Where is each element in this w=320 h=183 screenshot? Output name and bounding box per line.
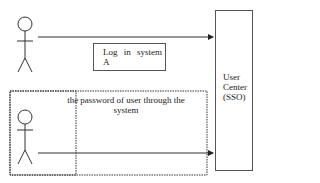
user-center-label: User Center (SSO): [223, 72, 253, 102]
message-1-box: Log in system A: [93, 43, 166, 71]
user-center-label-line-2: Center: [223, 82, 253, 92]
message-2-label-line-2: system: [56, 105, 196, 115]
user-center-label-line-3: (SSO): [223, 92, 253, 102]
message-1-label-line-2: A: [103, 57, 165, 67]
message-2-label-line-1: the password of user through the: [56, 95, 196, 105]
message-1-label-line-1: Log in system: [103, 47, 165, 57]
user-center-label-line-1: User: [223, 72, 253, 82]
message-2-label: the password of user through the system: [56, 95, 196, 115]
